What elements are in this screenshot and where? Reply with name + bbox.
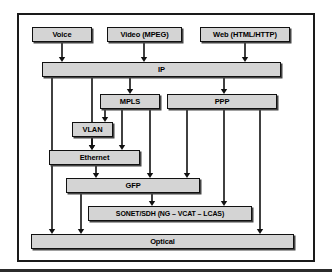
node-video: Video (MPEG) [107,27,182,42]
node-sonet-label: SONET/SDH (NG – VCAT – LCAS) [116,210,224,217]
node-voice-label: Voice [53,30,72,39]
node-web: Web (HTML/HTTP) [200,27,290,42]
node-gfp-label: GFP [125,181,140,190]
node-voice: Voice [32,27,92,42]
figure-canvas: VoiceVideo (MPEG)Web (HTML/HTTP)IPMPLSPP… [0,0,332,277]
node-vlan: VLAN [72,122,113,137]
node-web-label: Web (HTML/HTTP) [213,30,277,39]
node-optical: Optical [31,234,294,249]
node-ethernet: Ethernet [49,150,140,165]
node-ip-label: IP [158,65,165,74]
bottom-divider [0,269,332,272]
node-optical-label: Optical [150,237,175,246]
node-mpls: MPLS [100,94,160,109]
node-ethernet-label: Ethernet [80,153,110,162]
node-vlan-label: VLAN [82,125,102,134]
node-video-label: Video (MPEG) [120,30,168,39]
node-ip: IP [42,62,281,77]
node-gfp: GFP [66,178,200,193]
node-ppp-label: PPP [215,97,230,106]
diagram-frame [17,13,315,262]
node-mpls-label: MPLS [120,97,140,106]
node-ppp: PPP [167,94,277,109]
node-sonet: SONET/SDH (NG – VCAT – LCAS) [88,206,252,221]
